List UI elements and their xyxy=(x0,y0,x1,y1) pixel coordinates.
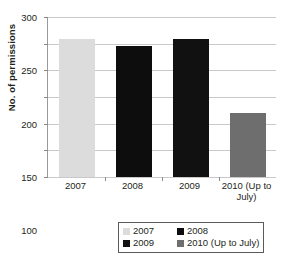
x-axis-label: 2008 xyxy=(104,180,161,202)
bar-slot xyxy=(219,17,276,177)
legend-item-2009: 2009 xyxy=(123,237,177,249)
y-axis-tick-label: 100 xyxy=(21,225,37,236)
legend-swatch-icon xyxy=(177,228,184,235)
bar[interactable] xyxy=(59,39,95,177)
legend-label: 2009 xyxy=(133,237,154,249)
legend-swatch-icon xyxy=(177,240,184,247)
legend-item-2008: 2008 xyxy=(177,225,208,237)
x-axis-label: 2009 xyxy=(161,180,218,202)
bar-chart: No. of permissions 300250200150100500 20… xyxy=(0,0,281,253)
legend-swatch-icon xyxy=(123,240,130,247)
y-axis-tick-label: 200 xyxy=(21,118,37,129)
legend-row: 2009 2010 (Up to July) xyxy=(123,237,259,249)
legend: 2007 2008 2009 2010 (Up to July) xyxy=(118,222,264,253)
bar-series xyxy=(48,17,276,177)
y-axis-tick: 0 xyxy=(44,177,48,178)
plot-area: 300250200150100500 xyxy=(47,17,276,178)
legend-row: 2007 2008 xyxy=(123,225,259,237)
bar-slot xyxy=(105,17,162,177)
legend-item-2007: 2007 xyxy=(123,225,177,237)
bar[interactable] xyxy=(173,39,209,177)
y-axis-tick-label: 150 xyxy=(21,172,37,183)
legend-label: 2008 xyxy=(187,225,208,237)
legend-swatch-icon xyxy=(123,228,130,235)
y-axis-title: No. of permissions xyxy=(6,8,17,128)
y-axis-tick-label: 250 xyxy=(21,65,37,76)
x-axis-label: 2010 (Up to July) xyxy=(218,180,275,202)
x-axis-labels: 2007200820092010 (Up to July) xyxy=(47,180,275,202)
bar-slot xyxy=(48,17,105,177)
legend-label: 2007 xyxy=(133,225,154,237)
legend-label: 2010 (Up to July) xyxy=(187,237,259,249)
legend-item-2010: 2010 (Up to July) xyxy=(177,237,259,249)
bar[interactable] xyxy=(230,113,266,177)
bar[interactable] xyxy=(116,46,152,177)
x-axis-label: 2007 xyxy=(47,180,104,202)
y-axis-tick-label: 300 xyxy=(21,12,37,23)
bar-slot xyxy=(162,17,219,177)
